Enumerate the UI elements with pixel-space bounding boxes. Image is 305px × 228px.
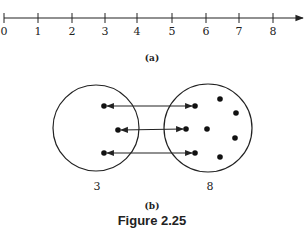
- tick-label: 3: [102, 25, 109, 38]
- caption-a: (a): [145, 53, 159, 63]
- figure-title: Figure 2.25: [118, 213, 187, 228]
- set-element-dot: [192, 103, 198, 109]
- tick-label: 0: [1, 25, 8, 38]
- set-element-dot: [183, 126, 189, 132]
- set-element-dot: [204, 126, 210, 132]
- tick-label: 2: [69, 25, 76, 38]
- right-set-label: 8: [207, 180, 214, 193]
- set-element-dot: [217, 96, 223, 102]
- set-element-dot: [217, 154, 223, 160]
- tick-label: 1: [35, 25, 42, 38]
- tick-label: 5: [169, 25, 176, 38]
- set-element-dot: [101, 103, 107, 109]
- set-element-dot: [115, 127, 121, 133]
- set-element-dot: [232, 135, 238, 141]
- set-element-dot: [233, 110, 239, 116]
- tick-label: 6: [203, 25, 210, 38]
- tick-label: 7: [236, 25, 243, 38]
- set-element-dot: [192, 150, 198, 156]
- caption-b: (b): [145, 201, 160, 211]
- left-set-circle: [53, 85, 139, 171]
- figure-diagram: 012345678 (a) 3 8 (b) Figure 2.25: [0, 0, 305, 228]
- tick-label: 8: [270, 25, 277, 38]
- set-element-dot: [101, 150, 107, 156]
- set-mapping-diagram: [53, 84, 252, 172]
- left-set-label: 3: [94, 180, 101, 193]
- number-line: 012345678: [1, 13, 304, 38]
- tick-label: 4: [134, 25, 141, 38]
- mapping-arrow: [121, 129, 183, 130]
